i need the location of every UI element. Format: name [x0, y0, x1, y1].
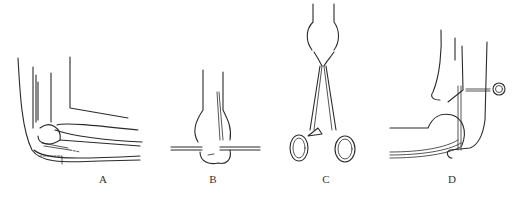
panel-b-drawing [171, 70, 260, 164]
panel-label-d: D [448, 173, 456, 185]
panel-label-a: A [99, 173, 107, 185]
panel-label-c: C [322, 173, 329, 185]
panel-a-drawing [18, 57, 142, 165]
panel-d-drawing [390, 30, 505, 158]
figure-illustration [0, 0, 513, 199]
panel-c-drawing [290, 4, 355, 162]
panel-label-b: B [209, 173, 216, 185]
